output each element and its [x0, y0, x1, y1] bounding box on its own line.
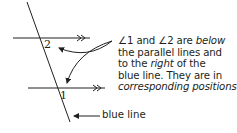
- explanation-text: ∠1 and ∠2 are below the parallel lines a…: [118, 35, 237, 93]
- text: ∠1 and ∠2 are: [118, 35, 196, 46]
- angle-1-label: 1: [60, 90, 67, 101]
- explanation-line-5: corresponding positions.: [118, 81, 237, 93]
- angle-2-label: 2: [44, 39, 51, 50]
- emphasis-below: below: [196, 35, 225, 46]
- emphasis-right: right: [150, 58, 173, 69]
- text: to the: [118, 58, 150, 69]
- pointer-arrow-to-angle-1: [67, 41, 112, 83]
- explanation-line-4: blue line. They are in: [118, 70, 237, 82]
- transversal-line: [27, 2, 70, 122]
- blue-line-label: blue line: [102, 110, 146, 120]
- pointer-arrow-to-angle-2: [59, 41, 112, 53]
- explanation-line-1: ∠1 and ∠2 are below: [118, 35, 237, 47]
- explanation-line-3: to the right of the: [118, 58, 237, 70]
- explanation-line-2: the parallel lines and: [118, 47, 237, 59]
- emphasis-corresponding-positions: corresponding positions: [118, 81, 237, 92]
- text: of the: [174, 58, 206, 69]
